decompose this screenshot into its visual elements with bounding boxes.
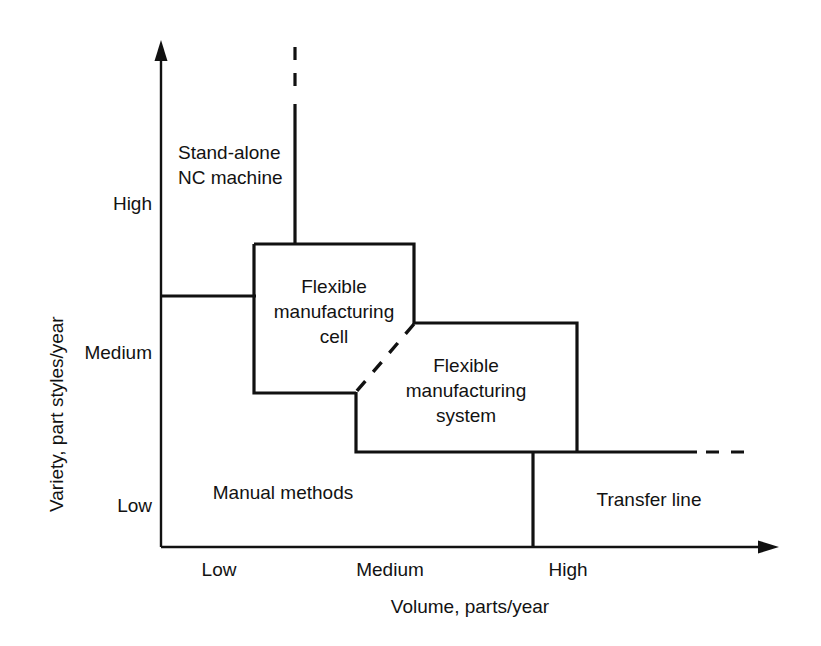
region-label-flexible-manufacturing-cell-line2: manufacturing xyxy=(274,299,394,324)
y-axis-tick-low: Low xyxy=(117,493,152,518)
region-label-stand-alone-nc-machine-line1: Stand-alone xyxy=(178,140,280,165)
diagram-canvas xyxy=(0,0,821,646)
y-axis-tick-high: High xyxy=(113,191,152,216)
x-axis-title: Volume, parts/year xyxy=(391,594,549,619)
y-axis-tick-medium: Medium xyxy=(84,340,152,365)
region-label-stand-alone-nc-machine-line2: NC machine xyxy=(178,165,283,190)
y-axis xyxy=(155,40,168,547)
x-axis-tick-medium: Medium xyxy=(356,557,424,582)
region-label-flexible-manufacturing-cell-line3: cell xyxy=(320,324,349,349)
x-axis xyxy=(161,541,779,554)
region-label-transfer-line: Transfer line xyxy=(597,487,702,512)
region-label-flexible-manufacturing-system-line1: Flexible xyxy=(433,353,498,378)
x-axis-tick-low: Low xyxy=(202,557,237,582)
region-label-flexible-manufacturing-system-line2: manufacturing xyxy=(406,378,526,403)
region-label-flexible-manufacturing-system-line3: system xyxy=(436,403,496,428)
region-label-manual-methods: Manual methods xyxy=(213,480,353,505)
y-axis-title: Variety, part styles/year xyxy=(46,316,68,512)
variety-volume-diagram: Variety, part styles/year High Medium Lo… xyxy=(0,0,821,646)
region-label-flexible-manufacturing-cell-line1: Flexible xyxy=(301,274,366,299)
x-axis-tick-high: High xyxy=(548,557,587,582)
